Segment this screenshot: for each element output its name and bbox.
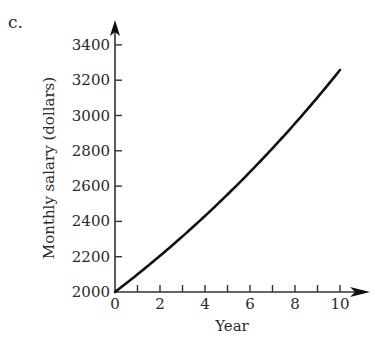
x-tick-label: 8 (290, 295, 300, 313)
line-chart: 200022002400260028003000320034000246810 … (0, 0, 391, 349)
y-axis-title: Monthly salary (dollars) (40, 77, 58, 259)
y-tick-label: 3400 (72, 36, 110, 54)
x-tick-label: 0 (110, 295, 120, 313)
y-tick-label: 2000 (72, 283, 110, 301)
y-tick-label: 2800 (72, 142, 110, 160)
y-tick-label: 3200 (72, 71, 110, 89)
x-tick-label: 4 (200, 295, 210, 313)
x-axis-title: Year (214, 317, 249, 335)
y-tick-label: 2600 (72, 177, 110, 195)
x-tick-label: 2 (155, 295, 165, 313)
axes (110, 20, 370, 297)
x-tick-label: 6 (245, 295, 255, 313)
salary-curve (115, 70, 340, 292)
ticks: 200022002400260028003000320034000246810 (72, 36, 350, 313)
x-tick-label: 10 (330, 295, 349, 313)
y-tick-label: 2400 (72, 212, 110, 230)
y-tick-label: 2200 (72, 248, 110, 266)
y-tick-label: 3000 (72, 107, 110, 125)
